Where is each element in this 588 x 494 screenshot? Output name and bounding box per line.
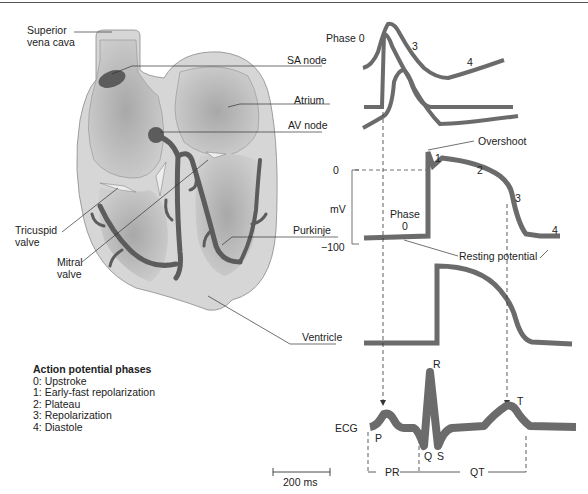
label-purkinje-phase4: 4 [552, 224, 558, 236]
leader-overshoot [428, 141, 474, 150]
label-ventricle: Ventricle [302, 331, 342, 343]
label-tricuspid-valve-line1: Tricuspid [15, 224, 57, 236]
label-purkinje-phase2: 2 [477, 164, 483, 176]
label-ecg: ECG [335, 422, 358, 434]
label-superior-vena-cava-line1: Superior [27, 24, 67, 36]
ventricle-trace [364, 266, 572, 344]
label-purkinje-phase1: 1 [435, 152, 441, 164]
label-qt-interval: QT [470, 466, 485, 478]
heart-illustration [77, 30, 277, 310]
purkinje-trace [364, 152, 560, 238]
action-potential-phase-legend: Action potential phases 0: Upstroke 1: E… [33, 364, 155, 433]
leader-resting-left [404, 240, 458, 256]
label-mitral-valve-line2: valve [57, 268, 82, 280]
label-sa-phase0: Phase 0 [326, 32, 365, 44]
label-sa-phase4: 4 [467, 56, 473, 68]
label-purkinje-phase-word: Phase [390, 208, 420, 220]
label-av-node: AV node [288, 119, 328, 131]
right-atrium-chamber [88, 40, 163, 178]
axis-label-mv: mV [330, 203, 346, 215]
axis-tick-minus-100-mv: −100 [321, 241, 345, 253]
label-purkinje-phase0: 0 [402, 220, 408, 232]
label-ecg-r: R [433, 358, 441, 370]
atrium-trace [364, 34, 513, 107]
p-arrowhead [380, 400, 386, 406]
label-purkinje: Purkinje [293, 224, 331, 236]
scale-bar [273, 468, 330, 476]
label-resting-potential: Resting potential [459, 250, 537, 262]
label-sa-phase3: 3 [412, 40, 418, 52]
label-ecg-s: S [437, 450, 444, 462]
label-mitral-valve-line1: Mitral [57, 256, 83, 268]
label-tricuspid-valve-line2: valve [15, 236, 40, 248]
label-pr-interval: PR [385, 466, 400, 478]
left-atrium-chamber [175, 67, 259, 156]
label-ecg-q: Q [424, 450, 432, 462]
purkinje-axis [352, 170, 428, 244]
legend-title: Action potential phases [33, 364, 155, 376]
upper-traces [363, 24, 518, 128]
label-superior-vena-cava-line2: vena cava [27, 36, 75, 48]
label-ecg-p: P [375, 432, 382, 444]
label-sa-node: SA node [287, 54, 327, 66]
label-ecg-t: T [517, 395, 523, 407]
label-overshoot: Overshoot [478, 135, 526, 147]
legend-item-phase-3: 3: Repolarization [33, 410, 155, 422]
label-atrium: Atrium [294, 94, 324, 106]
marker-arrowheads [380, 400, 510, 406]
legend-item-phase-4: 4: Diastole [33, 422, 155, 434]
label-purkinje-phase3: 3 [515, 192, 521, 204]
legend-item-phase-1: 1: Early-fast repolarization [33, 387, 155, 399]
leader-resting-right [540, 250, 548, 258]
scale-bar-label: 200 ms [283, 476, 317, 488]
axis-tick-0-mv: 0 [333, 164, 339, 176]
ecg-trace [370, 372, 576, 446]
